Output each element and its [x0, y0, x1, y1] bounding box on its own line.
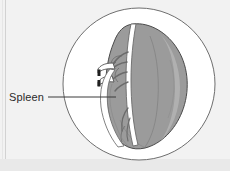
figure-canvas: Spleen [0, 0, 230, 171]
bottom-band [0, 159, 230, 171]
ligature-clip-upper [98, 70, 101, 77]
label-spleen: Spleen [9, 91, 44, 103]
spleen-diagram: Spleen [0, 0, 230, 171]
ligature-clip-lower [98, 80, 101, 87]
